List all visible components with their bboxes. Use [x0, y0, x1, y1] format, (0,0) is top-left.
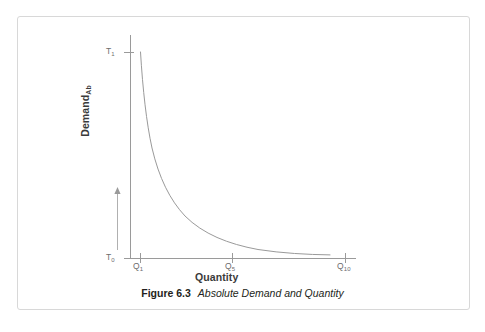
y-axis-title: DemandAb — [79, 21, 91, 201]
figure-caption-title: Absolute Demand and Quantity — [198, 287, 344, 299]
up-arrow-icon — [114, 187, 120, 250]
figure-caption-number: Figure 6.3 — [141, 287, 191, 299]
x-tick-label-q1: Q1 — [133, 261, 143, 271]
x-tick-label-q5: Q5 — [225, 261, 235, 271]
y-tick-label-t1: T1 — [106, 46, 115, 56]
chart-svg — [0, 0, 485, 332]
x-tick-label-q10: Q10 — [337, 261, 351, 271]
chart-plot-area: T1 T0 Q1 Q5 Q10 DemandAb Quantity — [0, 0, 485, 332]
figure-caption: Figure 6.3 Absolute Demand and Quantity — [0, 287, 485, 299]
x-axis-title: Quantity — [195, 271, 238, 283]
demand-curve — [141, 52, 331, 255]
y-tick-label-t0: T0 — [106, 252, 115, 262]
